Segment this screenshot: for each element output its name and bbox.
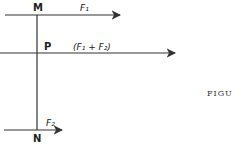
force-diagram — [0, 0, 241, 144]
point-n-label: N — [33, 133, 41, 144]
force-sum-label: (F₁ + F₂) — [73, 42, 111, 52]
figure-caption: FIGU — [207, 89, 233, 98]
point-p-label: P — [44, 41, 51, 52]
point-m-label: M — [33, 2, 43, 13]
force-f1-label: F₁ — [80, 3, 89, 13]
force-f2-label: F₂ — [46, 118, 55, 128]
